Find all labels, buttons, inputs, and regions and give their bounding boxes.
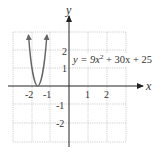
x-tick-label: 2 [104, 89, 109, 100]
parabola-curve-right [38, 35, 47, 86]
parabola-curve-left [29, 35, 38, 86]
y-tick-label: 2 [62, 46, 67, 57]
chart: y x -2 -1 1 2 2 1 -1 -2 y = 9x2 + 30x + … [0, 0, 164, 157]
y-axis-label: y [65, 3, 72, 17]
x-tick-label: 1 [85, 89, 90, 100]
svg-text:y = 9x2 + 30x + 25: y = 9x2 + 30x + 25 [72, 53, 152, 65]
equation-label: y = 9x2 + 30x + 25 [72, 53, 156, 66]
x-tick-label: -2 [25, 89, 33, 100]
y-tick-label: -1 [56, 100, 64, 111]
x-tick-label: -1 [43, 89, 51, 100]
x-axis-label: x [145, 79, 152, 93]
y-tick-label: -2 [56, 118, 64, 129]
y-tick-label: 1 [62, 63, 67, 74]
